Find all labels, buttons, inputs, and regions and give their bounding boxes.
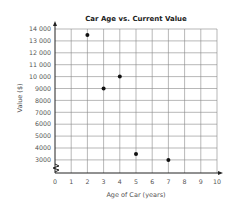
data-point	[85, 33, 89, 37]
y-tick-label: 5000	[35, 132, 51, 139]
data-point	[118, 75, 122, 79]
x-tick-label: 6	[150, 178, 154, 185]
x-tick-label: 10	[213, 178, 221, 185]
y-tick-label: 8000	[35, 97, 51, 104]
y-tick-label: 7000	[35, 109, 51, 116]
x-tick-label: 5	[134, 178, 138, 185]
x-tick-label: 1	[69, 178, 73, 185]
y-tick-label: 9000	[35, 85, 51, 92]
x-axis-label: Age of Car (years)	[106, 191, 165, 199]
y-tick-label: 4000	[35, 144, 51, 151]
x-tick-labels: 012345678910	[53, 178, 221, 185]
y-axis-label: Value ($)	[16, 83, 24, 112]
y-axis-arrow-icon	[53, 21, 57, 26]
data-points	[85, 33, 170, 162]
scatter-chart: Car Age vs. Current Value 14 00013 00012…	[0, 0, 235, 203]
y-tick-label: 6000	[35, 120, 51, 127]
x-tick-label: 7	[166, 178, 170, 185]
data-point	[134, 152, 138, 156]
y-tick-label: 12 000	[29, 49, 51, 56]
data-point	[102, 87, 106, 91]
x-tick-label: 3	[102, 178, 106, 185]
y-tick-label: 3000	[35, 156, 51, 163]
y-tick-label: 13 000	[29, 37, 51, 44]
x-tick-label: 2	[85, 178, 89, 185]
data-point	[166, 158, 170, 162]
grid	[55, 29, 217, 173]
x-axis-arrow-icon	[218, 171, 223, 175]
x-tick-label: 8	[183, 178, 187, 185]
x-tick-label: 9	[199, 178, 203, 185]
y-tick-label: 11 000	[29, 61, 51, 68]
x-tick-label: 0	[53, 178, 57, 185]
y-tick-label: 14 000	[29, 25, 51, 32]
y-tick-label: 10 000	[29, 73, 51, 80]
x-tick-label: 4	[118, 178, 122, 185]
y-tick-labels: 14 00013 00012 00011 00010 0009000800070…	[29, 25, 51, 163]
chart-title: Car Age vs. Current Value	[85, 15, 187, 23]
axis-break-icon	[53, 164, 59, 172]
